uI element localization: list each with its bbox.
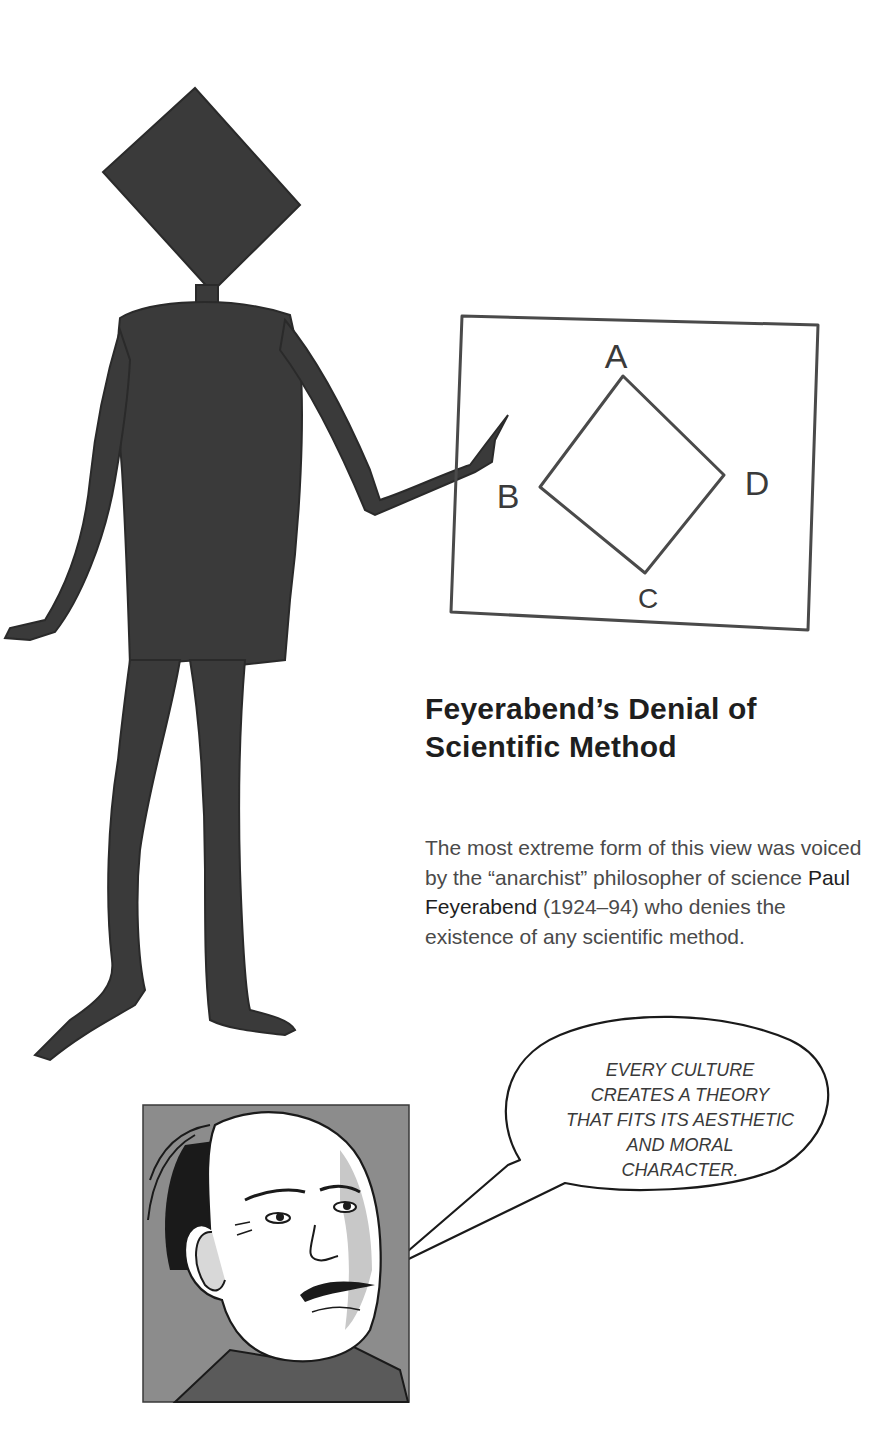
- bubble-line: CHARACTER.: [535, 1158, 825, 1183]
- feyerabend-portrait: [143, 1105, 409, 1402]
- label-b: B: [497, 477, 520, 515]
- bubble-line: CREATES A THEORY: [535, 1083, 825, 1108]
- title-line-2: Scientific Method: [425, 728, 865, 766]
- label-c: C: [638, 583, 658, 614]
- body-part-1: The most extreme form of this view was v…: [425, 836, 861, 889]
- title-line-1: Feyerabend’s Denial of: [425, 690, 865, 728]
- body-paragraph: The most extreme form of this view was v…: [425, 833, 865, 951]
- bubble-line: AND MORAL: [535, 1133, 825, 1158]
- page-title: Feyerabend’s Denial of Scientific Method: [425, 690, 865, 766]
- bubble-line: THAT FITS ITS AESTHETIC: [535, 1108, 825, 1133]
- board-labels: A B C D: [497, 337, 770, 614]
- label-a: A: [605, 337, 628, 375]
- bubble-line: EVERY CULTURE: [535, 1058, 825, 1083]
- speech-bubble-text: EVERY CULTURE CREATES A THEORY THAT FITS…: [535, 1058, 825, 1183]
- label-d: D: [745, 464, 770, 502]
